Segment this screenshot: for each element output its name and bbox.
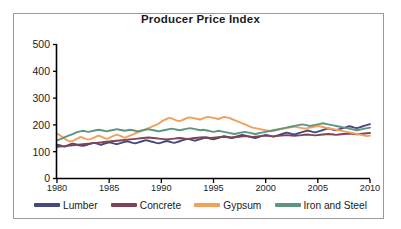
data-series-group	[57, 117, 370, 147]
axis-ticks	[53, 45, 370, 184]
legend-label: Iron and Steel	[304, 200, 367, 211]
y-tick-label: 100	[32, 146, 50, 158]
x-tick-label: 2010	[360, 183, 380, 193]
y-tick-label: 400	[32, 65, 50, 77]
x-tick-label: 1980	[47, 183, 67, 193]
y-axis-tick-labels: 0100200300400500	[32, 38, 50, 184]
legend-item-concrete[interactable]: Concrete	[111, 200, 181, 211]
y-tick-label: 300	[32, 92, 50, 104]
legend-swatch	[34, 203, 60, 207]
y-tick-label: 200	[32, 119, 50, 131]
x-tick-label: 1985	[99, 183, 119, 193]
x-axis-tick-labels: 1980198519901995200020052010	[47, 183, 380, 193]
legend-item-iron-and-steel[interactable]: Iron and Steel	[275, 200, 367, 211]
chart-legend: LumberConcreteGypsumIron and Steel	[14, 196, 383, 214]
chart-plot-area: 0100200300400500 19801985199019952000200…	[0, 0, 401, 229]
legend-swatch	[111, 203, 137, 207]
legend-item-gypsum[interactable]: Gypsum	[194, 200, 261, 211]
legend-label: Lumber	[63, 200, 98, 211]
x-tick-label: 2005	[308, 183, 328, 193]
x-tick-label: 2000	[255, 183, 275, 193]
legend-swatch	[194, 203, 220, 207]
x-tick-label: 1990	[151, 183, 171, 193]
x-tick-label: 1995	[203, 183, 223, 193]
legend-label: Gypsum	[223, 200, 261, 211]
legend-swatch	[275, 203, 301, 207]
legend-item-lumber[interactable]: Lumber	[34, 200, 98, 211]
y-tick-label: 500	[32, 38, 50, 50]
legend-label: Concrete	[140, 200, 181, 211]
